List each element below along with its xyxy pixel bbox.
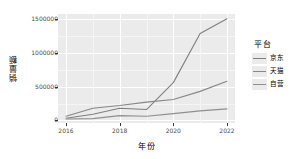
y-axis-title: 销量额	[6, 0, 20, 137]
x-tick-mark	[120, 123, 121, 126]
y-axis-title-text: 销量额	[8, 55, 19, 82]
legend: 平台 京东天猫自营	[252, 41, 298, 92]
x-axis-title: 年份	[0, 140, 293, 151]
legend-label: 自营	[270, 81, 284, 88]
legend-line-icon	[253, 84, 266, 85]
y-tick-label: 1000000	[31, 50, 58, 56]
legend-line-icon	[253, 58, 266, 59]
legend-item[interactable]: 自营	[252, 79, 298, 90]
legend-line-icon	[253, 71, 266, 72]
legend-key-swatch	[252, 53, 267, 64]
legend-entries: 京东天猫自营	[252, 53, 298, 90]
plot-panel	[58, 14, 235, 123]
legend-title: 平台	[254, 41, 298, 49]
x-tick-mark	[227, 123, 228, 126]
x-tick-label: 2016	[58, 128, 73, 134]
series-line	[66, 19, 227, 119]
legend-label: 京东	[270, 55, 284, 62]
y-tick-label: 1500000	[31, 16, 58, 22]
line-chart: 销量额 050000010000001500000 20162018202020…	[0, 0, 300, 159]
x-tick-label: 2022	[219, 128, 234, 134]
series-lines	[58, 14, 235, 123]
legend-key-swatch	[252, 79, 267, 90]
legend-item[interactable]: 天猫	[252, 66, 298, 77]
legend-item[interactable]: 京东	[252, 53, 298, 64]
legend-label: 天猫	[270, 68, 284, 75]
series-line	[66, 109, 227, 119]
x-tick-mark	[66, 123, 67, 126]
x-tick-label: 2020	[166, 128, 181, 134]
x-tick-mark	[173, 123, 174, 126]
x-tick-label: 2018	[112, 128, 127, 134]
legend-key-swatch	[252, 66, 267, 77]
